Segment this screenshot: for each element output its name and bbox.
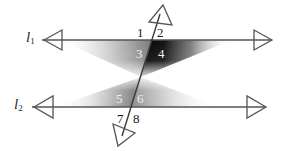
- angle-label-3: 3: [136, 47, 143, 60]
- shading-wedge-lower-right: [131, 77, 218, 107]
- arrowhead-top-transversal-icon: [149, 5, 172, 25]
- angle-label-7: 7: [117, 112, 124, 125]
- angle-label-4: 4: [158, 47, 165, 60]
- angle-label-1: 1: [137, 26, 144, 39]
- angle-label-5: 5: [116, 92, 123, 105]
- line-label-l2-subscript: 2: [18, 103, 23, 113]
- angle-label-8: 8: [133, 112, 140, 125]
- angle-label-2: 2: [157, 26, 164, 39]
- geometry-figure: l1 l2 1 2 3 4 5 6 7 8: [0, 0, 283, 151]
- shading-wedge-lower-left: [55, 77, 141, 107]
- line-label-l2: l2: [14, 97, 23, 113]
- shading-wedge-upper-right: [141, 40, 232, 77]
- line-label-l1-subscript: 1: [30, 36, 35, 46]
- line-label-l1: l1: [26, 30, 35, 46]
- figure-canvas: [0, 0, 283, 151]
- angle-label-6: 6: [137, 92, 144, 105]
